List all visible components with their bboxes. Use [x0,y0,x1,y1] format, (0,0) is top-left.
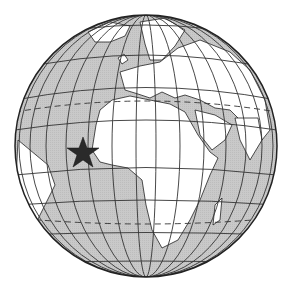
globe-map [0,0,292,289]
